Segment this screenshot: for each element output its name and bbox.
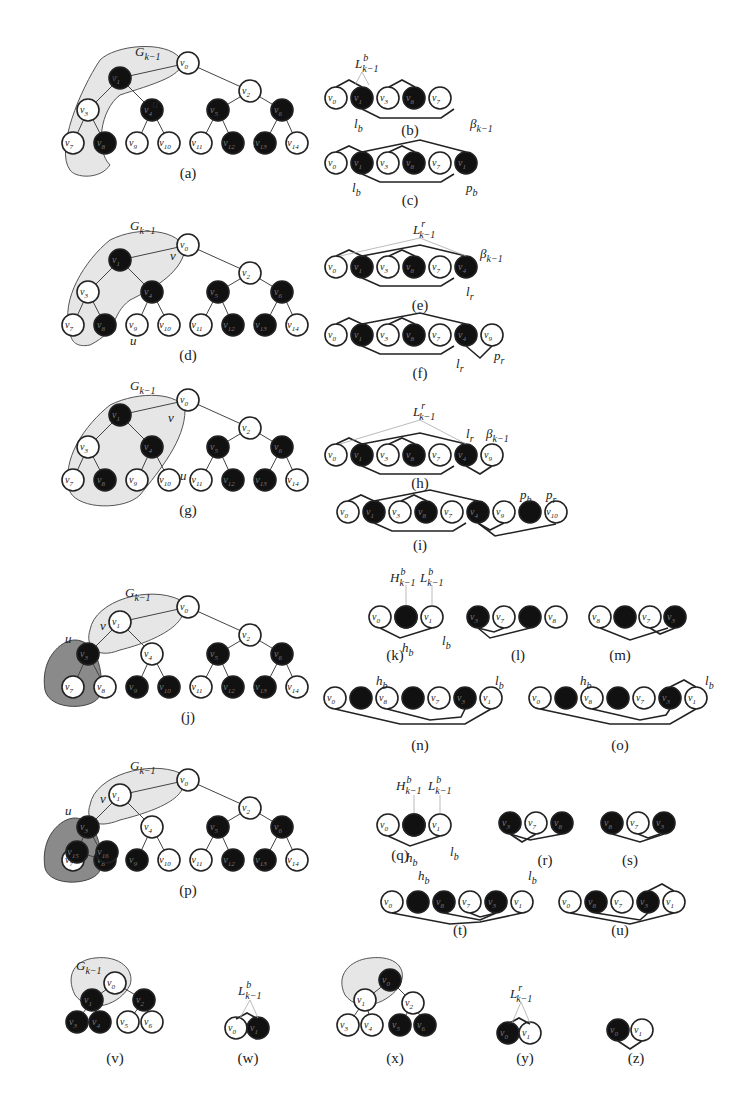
graph-node: v0 (225, 1017, 247, 1039)
graph-node: v0 (381, 891, 403, 913)
graph-node: v0 (324, 687, 346, 709)
panel-caption: (p) (179, 882, 197, 899)
graph-node: v3 (77, 99, 99, 121)
annotation-label: v (112, 70, 118, 85)
graph-node: v10 (158, 314, 180, 336)
graph-node: v15 (66, 841, 88, 863)
graph-node: v5 (207, 643, 229, 665)
annotation-label: lb (442, 633, 451, 651)
graph-node: v1 (109, 249, 131, 271)
graph-node: v9 (126, 676, 148, 698)
graph-node: v0 (369, 606, 391, 628)
graph-node: v7 (429, 324, 451, 346)
graph-node: v1 (429, 814, 451, 836)
graph-node: v2 (402, 992, 424, 1014)
graph-node: v3 (77, 643, 99, 665)
graph-node: v3 (653, 812, 675, 834)
graph-node: v11 (190, 469, 212, 491)
sequence-panel-k: v0v1Hbk−1Lbk−1hblb(k) (369, 566, 451, 664)
graph-node: v5 (207, 99, 229, 121)
graph-node: v3 (337, 1014, 359, 1036)
graph-node: v6 (414, 1014, 436, 1036)
graph-node: v1 (351, 256, 373, 278)
panel-caption: (x) (386, 1050, 404, 1067)
graph-node: v1 (421, 606, 443, 628)
graph-node: v4 (455, 256, 477, 278)
figure-canvas: v0v1v2v3v4v5v6v7v8v9v10v11v12v13v14Gk−1v… (0, 0, 750, 1112)
graph-node: v11 (190, 132, 212, 154)
graph-node: v4 (455, 324, 477, 346)
annotation-label: Lrk−1 (412, 218, 435, 240)
graph-node: v8 (403, 324, 425, 346)
graph-node: v0 (379, 969, 401, 991)
graph-node: v0 (177, 52, 199, 74)
graph-node: v3 (77, 816, 99, 838)
graph-node: v9 (126, 849, 148, 871)
annotation-label: hb (580, 673, 592, 691)
panel-caption: (m) (609, 647, 631, 664)
graph-node: v2 (239, 80, 261, 102)
annotation-label: Lrk−1 (412, 400, 435, 422)
graph-node: v10 (158, 849, 180, 871)
annotation-label: Lbk−1 (427, 774, 451, 796)
annotation-label: lr (456, 356, 464, 374)
graph-node: v0 (177, 389, 199, 411)
graph-node: v16 (96, 841, 118, 863)
graph-node (519, 606, 541, 628)
sequence-panel-e: v0v1v3v8v7v4Lrk−1βk−1lr(e) (325, 218, 503, 314)
annotation-label: lr (466, 284, 474, 302)
graph-node: v1 (81, 989, 103, 1011)
graph-node: v8 (403, 444, 425, 466)
panel-caption: (t) (453, 922, 467, 939)
graph-node: v7 (611, 891, 633, 913)
sequence-panel-t: v0v8v7v3v1hblb(t) (381, 868, 537, 939)
panel-caption: (l) (511, 647, 525, 664)
graph-node: v10 (158, 132, 180, 154)
sequence-panel-z: v0v1(z) (607, 1019, 653, 1067)
graph-node: v11 (190, 314, 212, 336)
graph-node: v2 (239, 417, 261, 439)
graph-node: v9 (481, 324, 503, 346)
graph-node: v5 (207, 436, 229, 458)
annotation-label: u (180, 468, 187, 483)
tree-panel-x: v0v1v2v3v4v5v6(x) (337, 958, 436, 1067)
graph-node: v1 (519, 1022, 541, 1044)
graph-node: v13 (254, 132, 276, 154)
graph-node: v1 (351, 87, 373, 109)
annotation-label: Gk−1 (130, 378, 156, 396)
graph-node: v12 (222, 132, 244, 154)
annotation-label: Lbk−1 (419, 566, 443, 588)
graph-node: v3 (377, 444, 399, 466)
graph-node: v7 (62, 314, 84, 336)
panel-caption: (u) (611, 922, 629, 939)
graph-node: v0 (337, 501, 359, 523)
graph-node: v13 (254, 314, 276, 336)
annotation-label: βk−1 (485, 426, 509, 444)
graph-node: v4 (361, 1014, 383, 1036)
sequence-panel-o: v0v8v7v3v1hblb(o) (529, 673, 714, 754)
graph-node: v9 (481, 444, 503, 466)
sequence-panel-s: v8v7v3(s) (601, 812, 675, 869)
graph-node: v1 (663, 891, 685, 913)
graph-node: v6 (271, 281, 293, 303)
graph-node: v8 (581, 687, 603, 709)
panel-caption: (z) (628, 1050, 645, 1067)
graph-node: v0 (325, 444, 347, 466)
graph-node: v3 (499, 812, 521, 834)
annotation-label: lr (466, 426, 474, 444)
panel-caption: (r) (538, 852, 553, 869)
sequence-panel-u: v0v8v7v3v1(u) (559, 884, 685, 939)
graph-node: v1 (351, 152, 373, 174)
annotation-label: u (65, 803, 72, 818)
graph-node: v1 (685, 687, 707, 709)
graph-node: v0 (377, 814, 399, 836)
graph-node (607, 687, 629, 709)
graph-node (614, 606, 636, 628)
graph-node: v3 (377, 87, 399, 109)
graph-node: v12 (222, 676, 244, 698)
annotation-label: v (168, 410, 174, 425)
annotation-label: v (100, 618, 106, 633)
graph-node: v12 (222, 314, 244, 336)
graph-node: v7 (633, 687, 655, 709)
panel-caption: (y) (516, 1050, 534, 1067)
